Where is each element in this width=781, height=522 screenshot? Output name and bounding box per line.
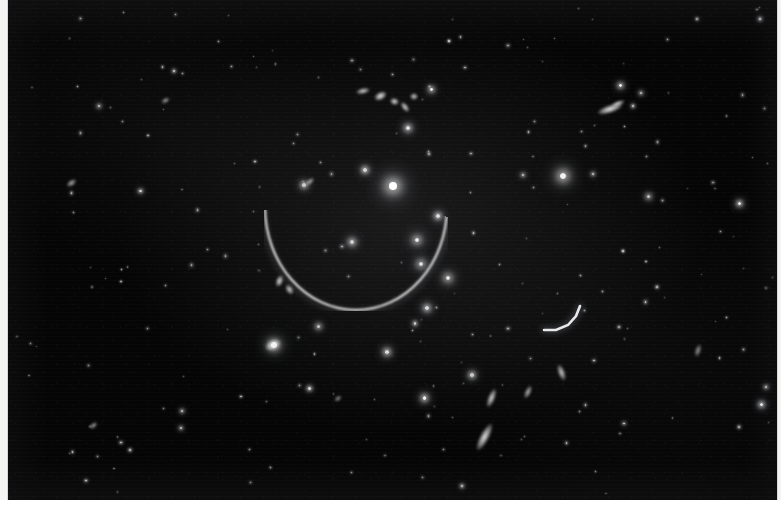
field-star-14 <box>293 143 294 144</box>
faint-speck-0 <box>759 7 760 8</box>
faint-speck-82 <box>619 433 620 434</box>
field-star-13 <box>738 426 739 427</box>
field-star-93 <box>726 317 727 318</box>
field-star-118 <box>622 250 623 251</box>
field-star-74 <box>71 192 72 193</box>
field-star-49 <box>460 36 461 37</box>
edge-on-galaxy-10 <box>264 337 283 353</box>
faint-speck-23 <box>733 236 734 237</box>
faint-speck-35 <box>524 436 525 437</box>
faint-speck-81 <box>89 426 90 427</box>
field-star-0 <box>507 328 509 330</box>
field-star-48 <box>175 14 176 15</box>
arc-knot-1 <box>389 96 400 105</box>
faint-speck-76 <box>522 283 523 284</box>
edge-on-galaxy-9 <box>333 394 342 403</box>
giant-lensing-arc-halo <box>261 100 451 314</box>
faint-speck-5 <box>36 346 37 347</box>
field-star-7 <box>530 358 531 359</box>
field-star-89 <box>147 135 148 136</box>
galaxy-14 <box>470 373 473 376</box>
faint-speck-47 <box>181 189 182 190</box>
field-star-85 <box>80 18 81 19</box>
galaxy-8 <box>350 240 354 244</box>
faint-speck-57 <box>542 61 543 62</box>
faint-speck-11 <box>31 87 32 88</box>
field-star-47 <box>719 357 720 358</box>
vignette-overlay <box>8 0 777 500</box>
faint-speck-8 <box>401 262 402 263</box>
field-star-66 <box>351 472 352 473</box>
field-star-83 <box>173 70 175 72</box>
field-star-115 <box>623 423 625 425</box>
faint-speck-60 <box>396 133 397 134</box>
faint-speck-66 <box>726 115 727 116</box>
galaxy-12 <box>317 325 320 328</box>
galaxy-13 <box>363 168 366 171</box>
field-star-36 <box>593 360 594 361</box>
field-star-102 <box>348 276 349 277</box>
galaxy-7 <box>271 342 276 347</box>
field-star-68 <box>592 173 594 175</box>
faint-speck-86 <box>701 274 702 275</box>
field-star-16 <box>473 232 474 233</box>
faint-speck-77 <box>16 336 17 337</box>
film-grain-texture <box>8 0 777 500</box>
faint-speck-27 <box>302 181 303 182</box>
faint-speck-36 <box>227 329 228 330</box>
faint-speck-24 <box>420 341 421 342</box>
field-star-39 <box>428 151 429 152</box>
field-star-22 <box>147 328 148 329</box>
field-star-51 <box>121 269 122 270</box>
faint-speck-58 <box>768 422 769 423</box>
faint-speck-37 <box>752 157 753 158</box>
field-star-80 <box>72 451 73 452</box>
faint-speck-46 <box>28 375 29 376</box>
field-star-52 <box>738 202 741 205</box>
faint-speck-4 <box>163 109 164 110</box>
field-star-41 <box>429 86 430 87</box>
galaxy-15 <box>647 195 650 198</box>
field-star-114 <box>499 264 500 265</box>
faint-speck-18 <box>523 39 524 40</box>
field-star-29 <box>470 192 471 193</box>
field-star-44 <box>80 132 81 133</box>
field-star-43 <box>325 250 327 252</box>
field-star-71 <box>662 200 663 201</box>
scanline-texture <box>8 0 777 500</box>
field-star-110 <box>765 386 767 388</box>
edge-on-galaxy-7 <box>305 176 316 186</box>
faint-speck-64 <box>461 362 462 363</box>
field-star-69 <box>120 442 122 444</box>
faint-speck-53 <box>141 79 142 80</box>
edge-on-galaxy-5 <box>160 96 170 105</box>
faint-speck-2 <box>228 15 229 16</box>
field-star-97 <box>250 482 251 483</box>
faint-speck-59 <box>502 384 503 385</box>
page-background <box>0 0 781 522</box>
giant-lensing-arc-core <box>264 103 448 311</box>
field-star-64 <box>581 131 582 132</box>
faint-speck-50 <box>623 63 624 64</box>
galaxy-10 <box>425 306 429 310</box>
field-star-1 <box>182 73 183 74</box>
field-star-73 <box>470 153 471 154</box>
faint-speck-68 <box>384 455 385 456</box>
faint-speck-43 <box>532 156 533 157</box>
field-star-119 <box>180 427 182 429</box>
faint-speck-7 <box>687 188 688 189</box>
faint-speck-21 <box>557 293 558 294</box>
galaxy-3 <box>419 262 423 266</box>
field-star-31 <box>163 408 164 409</box>
edge-darkening-layer <box>8 0 777 500</box>
faint-speck-19 <box>234 163 235 164</box>
faint-speck-9 <box>490 335 491 336</box>
field-star-67 <box>618 326 619 327</box>
faint-speck-44 <box>434 406 435 407</box>
edge-on-galaxy-6 <box>611 98 626 107</box>
faint-speck-67 <box>266 401 267 402</box>
field-star-101 <box>413 59 415 61</box>
faint-speck-55 <box>452 19 453 20</box>
field-star-23 <box>249 449 250 450</box>
field-star-12 <box>73 212 74 213</box>
